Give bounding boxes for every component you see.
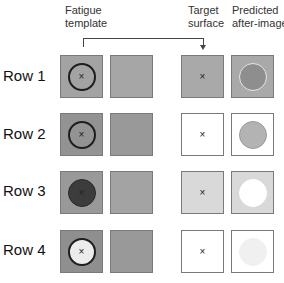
header-target-surface: Target surface [188, 4, 224, 30]
header-fatigue-line2: template [65, 17, 107, 30]
target-surface-square-4: × [181, 230, 224, 273]
blank-square-4 [110, 230, 153, 273]
predicted-after-image-square-1 [231, 55, 274, 98]
after-image-circle-1 [239, 63, 267, 91]
fixation-cross-icon: × [61, 70, 102, 84]
fixation-cross-icon: × [61, 186, 102, 200]
predicted-after-image-square-3 [231, 171, 274, 214]
fixation-cross-icon: × [182, 186, 223, 200]
row-label-4: Row 4 [3, 241, 46, 259]
fatigue-template-square-3: × [60, 171, 103, 214]
target-surface-square-1: × [181, 55, 224, 98]
bracket-left-tick [83, 38, 84, 47]
row-label-1: Row 1 [3, 67, 46, 85]
fixation-cross-icon: × [61, 245, 102, 259]
row-label-2: Row 2 [3, 125, 46, 143]
fatigue-template-square-4: × [60, 230, 103, 273]
row-label-3: Row 3 [3, 182, 46, 200]
target-surface-square-3: × [181, 171, 224, 214]
fixation-cross-icon: × [182, 128, 223, 142]
fatigue-template-square-2: × [60, 113, 103, 156]
header-predicted-line1: Predicted [232, 4, 284, 17]
after-image-circle-2 [239, 121, 267, 149]
header-predicted-after-image: Predicted after-image [232, 4, 284, 30]
predicted-after-image-square-2 [231, 113, 274, 156]
fixation-cross-icon: × [182, 70, 223, 84]
header-fatigue-template: Fatigue template [65, 4, 107, 30]
bracket-horizontal-line [83, 38, 204, 39]
blank-square-3 [110, 171, 153, 214]
target-surface-square-2: × [181, 113, 224, 156]
fixation-cross-icon: × [182, 245, 223, 259]
blank-square-1 [110, 55, 153, 98]
fatigue-template-square-1: × [60, 55, 103, 98]
after-image-circle-3 [239, 179, 267, 207]
header-predicted-line2: after-image [232, 17, 284, 30]
arrow-down-icon [200, 45, 206, 50]
blank-square-2 [110, 113, 153, 156]
header-target-line2: surface [188, 17, 224, 30]
after-image-circle-4 [239, 238, 267, 266]
predicted-after-image-square-4 [231, 230, 274, 273]
header-fatigue-line1: Fatigue [65, 4, 107, 17]
fixation-cross-icon: × [61, 128, 102, 142]
header-target-line1: Target [188, 4, 224, 17]
